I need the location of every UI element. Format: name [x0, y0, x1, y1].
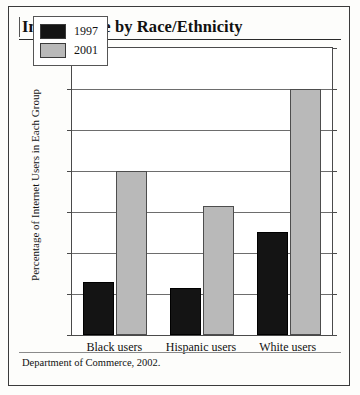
y-tick-mark: [67, 253, 72, 254]
bar-white-1997: [257, 232, 288, 335]
y-tick-mark: [67, 212, 72, 213]
y-tick-mark: [67, 130, 72, 131]
source-divider: [19, 352, 341, 353]
legend-item: 2001: [40, 41, 98, 60]
y-axis-label: Percentage of Internet Users in Each Gro…: [29, 75, 41, 295]
y-tick-mark: [332, 253, 337, 254]
bar-black-2001: [116, 171, 147, 335]
y-tick-mark: [332, 171, 337, 172]
y-tick-mark: [67, 89, 72, 90]
legend-label-2001: 2001: [74, 43, 98, 58]
y-tick-mark: [332, 130, 337, 131]
y-tick-mark: [332, 294, 337, 295]
bar-white-2001: [290, 89, 321, 335]
bar-hispanic-2001: [203, 206, 234, 335]
legend-swatch-2001: [40, 43, 66, 58]
y-tick-mark: [67, 171, 72, 172]
legend-swatch-1997: [40, 24, 66, 39]
y-tick-mark: [67, 335, 72, 336]
y-tick-mark: [332, 48, 337, 49]
y-tick-mark: [332, 335, 337, 336]
chart-legend: 1997 2001: [33, 16, 108, 66]
y-tick-mark: [332, 212, 337, 213]
bar-black-1997: [83, 282, 114, 335]
source-caption: Department of Commerce, 2002.: [22, 357, 161, 368]
plot-region: 70%60%50%40%30%20%10%0%: [71, 47, 333, 336]
y-tick-mark: [67, 294, 72, 295]
bar-hispanic-1997: [170, 288, 201, 335]
figure-frame: Internet Use by Race/Ethnicity Percentag…: [8, 6, 350, 386]
legend-label-1997: 1997: [74, 24, 98, 39]
y-tick-mark: [332, 89, 337, 90]
legend-item: 1997: [40, 22, 98, 41]
